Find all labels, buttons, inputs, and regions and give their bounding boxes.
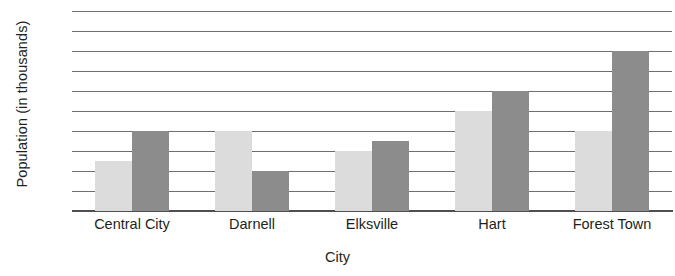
x-axis-tick-label: Central City	[94, 216, 170, 232]
bar	[215, 131, 252, 211]
x-axis-tick-label: Elksville	[346, 216, 398, 232]
bar	[455, 111, 492, 211]
bar	[612, 51, 649, 211]
bar-group	[455, 91, 529, 211]
bar	[132, 131, 169, 211]
bar	[492, 91, 529, 211]
bar-chart: Population (in thousands) City 100908070…	[0, 0, 675, 276]
bar	[95, 161, 132, 211]
x-axis-tick-label: Darnell	[229, 216, 275, 232]
x-axis-title: City	[0, 249, 675, 265]
bar	[372, 141, 409, 211]
y-axis-title: Population (in thousands)	[14, 4, 30, 204]
bar	[575, 131, 612, 211]
bar-group	[335, 141, 409, 211]
bar	[252, 171, 289, 211]
bar-group	[575, 51, 649, 211]
bar-group	[215, 131, 289, 211]
gridline	[72, 11, 672, 12]
bar-group	[95, 131, 169, 211]
gridline	[72, 31, 672, 32]
bar	[335, 151, 372, 211]
x-axis-tick-label: Forest Town	[573, 216, 652, 232]
plot-area	[72, 11, 672, 211]
x-axis-tick-label: Hart	[478, 216, 505, 232]
